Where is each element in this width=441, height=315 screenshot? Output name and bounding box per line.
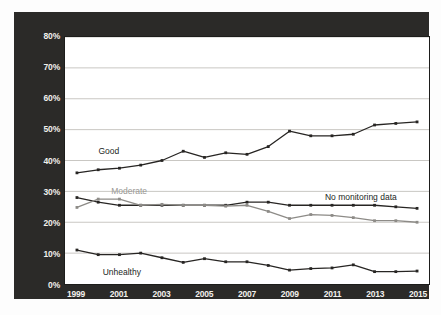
data-point-marker (331, 204, 334, 207)
y-axis-tick-label: 20% (26, 218, 60, 227)
data-point-marker (416, 270, 419, 273)
data-point-marker (76, 171, 79, 174)
data-point-marker (203, 257, 206, 260)
y-axis-tick-label: 40% (26, 156, 60, 165)
data-point-marker (182, 204, 185, 207)
data-point-marker (139, 252, 142, 255)
data-point-marker (203, 156, 206, 159)
data-point-marker (394, 205, 397, 208)
data-point-marker (416, 221, 419, 224)
data-point-marker (373, 124, 376, 127)
data-point-marker (118, 204, 121, 207)
data-point-marker (118, 167, 121, 170)
data-point-marker (97, 253, 100, 256)
series-annotation-moderate: Moderate (111, 186, 147, 196)
y-axis-tick-label: 30% (26, 187, 60, 196)
data-point-marker (394, 219, 397, 222)
x-axis-tick-label: 2013 (355, 289, 395, 300)
data-point-marker (118, 198, 121, 201)
x-axis-tick-label: 2005 (184, 289, 224, 300)
x-axis-tick-label: 1999 (56, 289, 96, 300)
data-point-marker (331, 267, 334, 270)
plot-svg (65, 37, 429, 284)
data-point-marker (309, 213, 312, 216)
data-point-marker (288, 269, 291, 272)
data-point-marker (97, 198, 100, 201)
data-point-marker (309, 204, 312, 207)
data-point-marker (331, 214, 334, 217)
data-point-marker (161, 203, 164, 206)
data-point-marker (76, 249, 79, 252)
data-point-marker (267, 201, 270, 204)
chart-panel: 0%10%20%30%40%50%60%70%80% GoodModerateN… (14, 12, 429, 299)
y-axis-tick-label: 10% (26, 249, 60, 258)
x-axis-tick-label: 2009 (270, 289, 310, 300)
x-axis-tick-label: 2011 (313, 289, 353, 300)
data-point-marker (246, 260, 249, 263)
data-point-marker (139, 164, 142, 167)
plot-area: GoodModerateNo monitoring dataUnhealthy (64, 36, 430, 285)
data-point-marker (139, 204, 142, 207)
data-point-marker (288, 204, 291, 207)
data-point-marker (352, 133, 355, 136)
data-point-marker (246, 201, 249, 204)
x-axis-tick-label: 2003 (142, 289, 182, 300)
data-point-marker (373, 270, 376, 273)
data-point-marker (394, 122, 397, 125)
x-axis-tick-label: 2007 (227, 289, 267, 300)
data-point-marker (309, 267, 312, 270)
data-point-marker (224, 151, 227, 154)
series-annotation-no-monitoring-data: No monitoring data (325, 192, 397, 202)
data-point-marker (224, 205, 227, 208)
data-point-marker (352, 216, 355, 219)
x-axis: 199920012003200520072009201120132015 (64, 289, 430, 305)
data-point-marker (182, 150, 185, 153)
series-annotation-good: Good (98, 146, 119, 156)
data-point-marker (288, 217, 291, 220)
data-point-marker (352, 263, 355, 266)
y-axis-tick-label: 60% (26, 94, 60, 103)
data-point-marker (394, 270, 397, 273)
data-point-marker (267, 210, 270, 213)
data-point-marker (352, 204, 355, 207)
data-point-marker (309, 134, 312, 137)
data-point-marker (76, 206, 79, 209)
y-axis-tick-label: 70% (26, 63, 60, 72)
data-point-marker (373, 219, 376, 222)
data-point-marker (97, 168, 100, 171)
data-point-marker (224, 260, 227, 263)
data-point-marker (118, 253, 121, 256)
y-axis: 0%10%20%30%40%50%60%70%80% (20, 36, 60, 285)
data-point-marker (373, 204, 376, 207)
data-point-marker (267, 145, 270, 148)
x-axis-tick-label: 2015 (398, 289, 438, 300)
chart-figure: 0%10%20%30%40%50%60%70%80% GoodModerateN… (0, 0, 441, 315)
gridlines (65, 37, 429, 284)
series-annotation-unhealthy: Unhealthy (103, 267, 141, 277)
y-axis-tick-label: 50% (26, 125, 60, 134)
y-axis-tick-label: 80% (26, 32, 60, 41)
data-point-marker (416, 121, 419, 124)
data-point-marker (76, 196, 79, 199)
data-point-marker (161, 256, 164, 259)
data-point-marker (97, 201, 100, 204)
data-point-marker (267, 264, 270, 267)
data-point-marker (203, 204, 206, 207)
data-point-marker (331, 134, 334, 137)
data-point-marker (246, 204, 249, 207)
data-point-marker (182, 261, 185, 264)
data-point-marker (161, 159, 164, 162)
x-axis-tick-label: 2001 (99, 289, 139, 300)
data-point-marker (288, 130, 291, 133)
data-point-marker (416, 207, 419, 210)
y-axis-tick-label: 0% (26, 281, 60, 290)
data-point-marker (246, 153, 249, 156)
